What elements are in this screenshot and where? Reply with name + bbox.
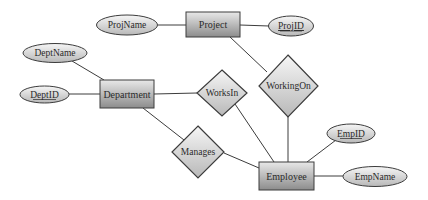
attribute-deptid[interactable]: DeptID bbox=[20, 86, 69, 103]
attribute-deptname[interactable]: DeptName bbox=[23, 44, 87, 63]
line-department-worksin bbox=[154, 93, 197, 94]
line-deptname-department bbox=[72, 61, 104, 80]
relationship-workingon[interactable]: WorkingOn bbox=[259, 55, 318, 117]
attribute-projname[interactable]: ProjName bbox=[97, 15, 158, 35]
relationship-label: Manages bbox=[181, 147, 216, 157]
relationship-manages[interactable]: Manages bbox=[172, 126, 224, 178]
attribute-label: ProjName bbox=[108, 20, 147, 30]
attribute-label: DeptName bbox=[34, 48, 75, 58]
attribute-label: EmpName bbox=[355, 172, 396, 182]
line-project-workingon bbox=[230, 37, 267, 72]
entity-label: Project bbox=[199, 19, 228, 30]
line-manages-employee bbox=[224, 153, 259, 168]
line-project-projid bbox=[240, 25, 269, 26]
entity-label: Employee bbox=[266, 171, 307, 182]
relationship-label: WorkingOn bbox=[266, 81, 311, 91]
attribute-label-key: EmpID bbox=[337, 129, 365, 139]
relationship-worksin[interactable]: WorksIn bbox=[197, 70, 247, 116]
entity-label: Department bbox=[103, 89, 150, 100]
entity-employee[interactable]: Employee bbox=[259, 162, 314, 190]
relationship-label: WorksIn bbox=[206, 88, 239, 98]
entity-department[interactable]: Department bbox=[100, 80, 154, 108]
attribute-label-key: DeptID bbox=[30, 90, 59, 100]
attribute-empid[interactable]: EmpID bbox=[327, 124, 375, 143]
line-worksin-employee bbox=[235, 104, 274, 162]
line-employee-empid bbox=[307, 140, 336, 162]
entity-project[interactable]: Project bbox=[186, 12, 240, 37]
attribute-label-key: ProjID bbox=[278, 21, 304, 31]
attribute-projid[interactable]: ProjID bbox=[269, 16, 314, 36]
er-diagram: Project Department Employee WorkingOn Wo… bbox=[0, 0, 428, 200]
attribute-empname[interactable]: EmpName bbox=[343, 167, 407, 187]
line-department-manages bbox=[143, 108, 184, 140]
